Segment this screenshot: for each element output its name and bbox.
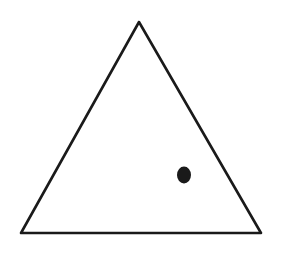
triangle-diagram — [0, 0, 285, 253]
triangle-outline — [21, 22, 261, 233]
dot-marker — [177, 167, 191, 184]
